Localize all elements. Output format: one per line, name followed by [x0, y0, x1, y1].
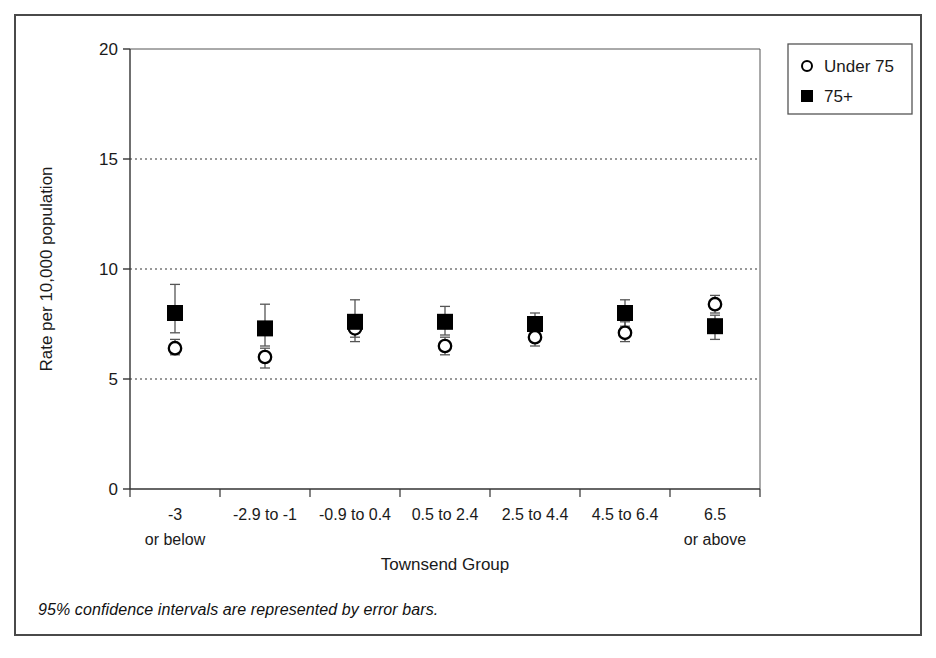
data-point-1-5 [617, 305, 633, 321]
scatter-chart: 05101520-3or below-2.9 to -1-0.9 to 0.40… [16, 16, 924, 638]
x-category-label-6: 6.5 [704, 506, 726, 523]
x-category-label-0: -3 [168, 506, 182, 523]
data-point-0-0 [169, 342, 181, 354]
legend-label-0: Under 75 [824, 57, 894, 76]
legend-marker-1 [801, 90, 813, 102]
footnote-text: 95% confidence intervals are represented… [38, 601, 438, 619]
x-category-label-5: 4.5 to 6.4 [592, 506, 659, 523]
data-point-1-6 [707, 318, 723, 334]
data-point-0-3 [439, 340, 451, 352]
y-tick-label-15: 15 [99, 150, 118, 169]
x-category-label-1: -2.9 to -1 [233, 506, 297, 523]
x-category-label-2: -0.9 to 0.4 [319, 506, 391, 523]
data-point-0-4 [529, 331, 541, 343]
data-point-1-3 [437, 314, 453, 330]
data-point-1-4 [527, 316, 543, 332]
legend-label-1: 75+ [824, 87, 853, 106]
x-category-label-3: 0.5 to 2.4 [412, 506, 479, 523]
data-point-0-1 [259, 351, 271, 363]
x-category-label-0-line2: or below [145, 531, 206, 548]
x-category-label-6-line2: or above [684, 531, 746, 548]
data-point-1-1 [257, 320, 273, 336]
y-tick-label-10: 10 [99, 260, 118, 279]
data-point-1-0 [167, 305, 183, 321]
figure-frame: 05101520-3or below-2.9 to -1-0.9 to 0.40… [14, 14, 922, 636]
data-point-0-5 [619, 327, 631, 339]
x-axis-title: Townsend Group [381, 555, 510, 574]
y-tick-label-0: 0 [109, 480, 118, 499]
figure-container: 05101520-3or below-2.9 to -1-0.9 to 0.40… [0, 0, 936, 658]
legend-marker-0 [802, 61, 812, 71]
data-point-0-6 [709, 298, 721, 310]
x-category-label-4: 2.5 to 4.4 [502, 506, 569, 523]
y-axis-title: Rate per 10,000 population [37, 166, 56, 371]
y-tick-label-20: 20 [99, 40, 118, 59]
data-point-1-2 [347, 314, 363, 330]
y-tick-label-5: 5 [109, 370, 118, 389]
